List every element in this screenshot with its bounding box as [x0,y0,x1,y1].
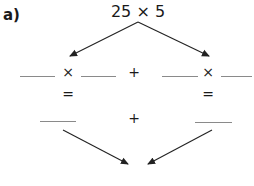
final-answer-area[interactable] [118,170,158,184]
multiply-symbol-right: × [201,64,215,80]
plus-symbol-top: + [127,64,141,80]
answer-blank-4[interactable] [221,76,252,77]
answer-blank-2[interactable] [81,76,116,77]
merge-arrow-right-icon [148,130,212,164]
diagram-arrows [0,0,254,186]
question-label: a) [3,6,20,24]
equals-symbol-left: = [61,86,75,102]
expression-title: 25 × 5 [98,3,178,21]
answer-blank-1[interactable] [20,76,55,77]
answer-blank-6[interactable] [195,122,232,123]
multiply-symbol-left: × [61,64,75,80]
split-arrow-right-icon [138,22,209,56]
split-arrow-left-icon [70,22,138,56]
plus-symbol-bottom: + [127,110,141,126]
equals-symbol-right: = [201,86,215,102]
merge-arrow-left-icon [63,130,128,164]
answer-blank-3[interactable] [162,76,198,77]
answer-blank-5[interactable] [40,121,76,122]
